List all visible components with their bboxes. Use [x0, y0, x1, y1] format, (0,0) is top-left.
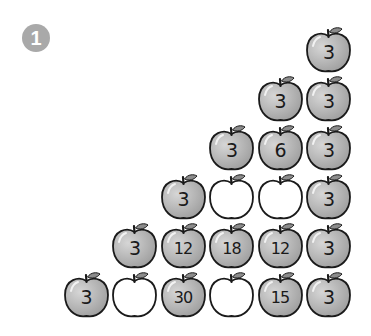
apple-value: 3: [110, 237, 159, 259]
apple-value: 30: [159, 288, 208, 307]
apple-value: 3: [304, 90, 353, 112]
apple-filled: 3: [207, 124, 256, 173]
apple-number-pyramid: 3 3 3: [0, 0, 371, 336]
apple-filled: 18: [207, 222, 256, 271]
apple-filled: 3: [62, 271, 111, 320]
apple-filled: 12: [159, 222, 208, 271]
apple-blank[interactable]: [207, 173, 256, 222]
apple-filled: 3: [256, 75, 305, 124]
apple-value: 12: [159, 239, 208, 258]
apple-filled: 3: [304, 173, 353, 222]
apple-filled: 3: [304, 222, 353, 271]
apple-value: 3: [304, 286, 353, 308]
apple-filled: 3: [159, 173, 208, 222]
apple-value: 6: [256, 139, 305, 161]
apple-value: 3: [159, 188, 208, 210]
apple-filled: 3: [304, 26, 353, 75]
apple-filled: 6: [256, 124, 305, 173]
apple-filled: 12: [256, 222, 305, 271]
apple-value: 3: [256, 90, 305, 112]
apple-value: 3: [304, 188, 353, 210]
apple-filled: 15: [256, 271, 305, 320]
apple-value: 12: [256, 239, 305, 258]
apple-icon: [256, 173, 305, 222]
apple-value: 3: [304, 237, 353, 259]
apple-filled: 3: [304, 271, 353, 320]
apple-value: 3: [207, 139, 256, 161]
apple-blank[interactable]: [207, 271, 256, 320]
apple-filled: 30: [159, 271, 208, 320]
apple-blank[interactable]: [110, 271, 159, 320]
apple-blank[interactable]: [256, 173, 305, 222]
apple-filled: 3: [304, 75, 353, 124]
apple-value: 3: [62, 286, 111, 308]
apple-value: 3: [304, 139, 353, 161]
apple-value: 3: [304, 41, 353, 63]
apple-filled: 3: [110, 222, 159, 271]
apple-filled: 3: [304, 124, 353, 173]
apple-value: 15: [256, 288, 305, 307]
apple-icon: [207, 271, 256, 320]
apple-value: 18: [207, 239, 256, 258]
apple-icon: [207, 173, 256, 222]
apple-icon: [110, 271, 159, 320]
